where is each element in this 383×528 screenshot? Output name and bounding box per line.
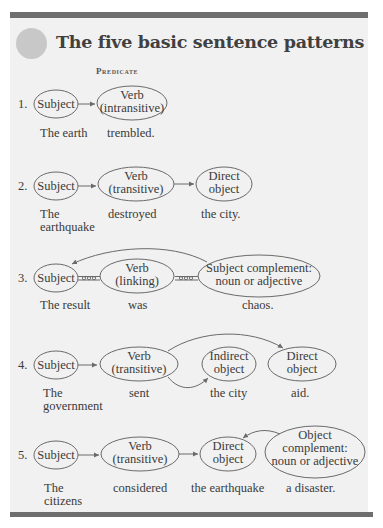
example-word: chaos. (242, 298, 274, 312)
node-label: Direct (208, 169, 240, 183)
node-label: Subject (37, 179, 75, 193)
node-label: Subject (37, 448, 75, 462)
pattern-number: 3. (18, 271, 27, 285)
node-label: object (213, 452, 244, 466)
node-label: (transitive) (109, 182, 164, 196)
node-label: Verb (128, 439, 152, 453)
node-label: object (209, 182, 240, 196)
node-label: Subject (37, 271, 75, 285)
node-label: (linking) (115, 274, 159, 288)
example-word: considered (113, 481, 168, 495)
example-word: earthquake (40, 220, 95, 234)
node-label: noun or adjective (272, 454, 359, 468)
node-label: (intransitive) (100, 101, 165, 115)
node-label: Verb (120, 88, 144, 102)
connector (92, 277, 95, 280)
node-label: Subject complement: (206, 261, 312, 275)
node-label: Subject (37, 97, 75, 111)
connector (189, 277, 192, 280)
connector (82, 277, 85, 280)
node-label: Direct (286, 349, 318, 363)
example-word: destroyed (108, 207, 157, 221)
linking-connector (78, 277, 100, 281)
example-word: sent (129, 386, 150, 400)
node-label: object (214, 362, 245, 376)
example-word: a disaster. (286, 481, 335, 495)
example-word: The (44, 481, 64, 495)
example-word: The result (40, 298, 91, 312)
pattern-number: 2. (18, 179, 27, 193)
node-label: Subject (37, 358, 75, 372)
node-label: Direct (212, 439, 244, 453)
example-word: was (128, 298, 148, 312)
example-word: trembled. (107, 126, 155, 140)
indirect-object-arrow (168, 377, 208, 388)
connector (184, 277, 187, 280)
node-label: complement: (282, 441, 347, 455)
example-word: The (40, 207, 60, 221)
example-word: citizens (44, 494, 82, 508)
example-word: The (43, 386, 63, 400)
example-word: government (43, 399, 103, 413)
pattern-number: 1. (18, 97, 27, 111)
node-label: Verb (124, 169, 148, 183)
node-label: noun or adjective (216, 274, 303, 288)
node-label: object (287, 362, 318, 376)
sentence-pattern-diagram: 1. Subject Verb (intransitive) The earth… (0, 0, 383, 528)
node-label: Verb (125, 261, 149, 275)
node-label: (transitive) (112, 362, 167, 376)
linking-connector (175, 277, 198, 281)
example-word: the city. (201, 207, 240, 221)
connector (87, 277, 90, 280)
example-word: aid. (291, 386, 309, 400)
example-word: The earth (40, 126, 88, 140)
node-label: Object (298, 428, 332, 442)
example-word: the city (210, 386, 248, 400)
node-label: (transitive) (113, 452, 168, 466)
connector (179, 277, 182, 280)
node-label: Verb (127, 349, 151, 363)
pattern-number: 4. (18, 358, 27, 372)
node-label: Indirect (210, 349, 249, 363)
example-word: the earthquake (191, 481, 265, 495)
pattern-number: 5. (18, 448, 27, 462)
